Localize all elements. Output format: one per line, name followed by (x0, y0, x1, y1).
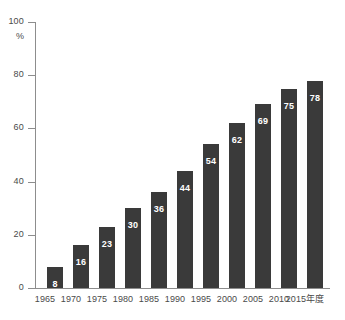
bar-group[interactable]: 78 (302, 22, 328, 288)
bar-group[interactable]: 23 (94, 22, 120, 288)
y-tick-mark (28, 128, 35, 129)
bar-value-label: 8 (42, 280, 68, 289)
bar[interactable] (307, 81, 323, 288)
bar-group[interactable]: 69 (250, 22, 276, 288)
y-axis-unit-label: % (0, 32, 24, 41)
bar-value-label: 75 (276, 102, 302, 111)
bar-group[interactable]: 54 (198, 22, 224, 288)
y-tick-mark (28, 75, 35, 76)
bar-value-label: 44 (172, 184, 198, 193)
bar-group[interactable]: 62 (224, 22, 250, 288)
bar-value-label: 69 (250, 117, 276, 126)
bar[interactable] (229, 123, 245, 288)
bar-value-label: 62 (224, 136, 250, 145)
bar-value-label: 16 (68, 258, 94, 267)
bar-group[interactable]: 8 (42, 22, 68, 288)
y-tick-mark (28, 288, 35, 289)
y-tick-label: 20 (0, 230, 24, 239)
bar-group[interactable]: 75 (276, 22, 302, 288)
x-axis-line (35, 288, 330, 289)
bar-group[interactable]: 36 (146, 22, 172, 288)
y-tick-mark (28, 22, 35, 23)
bar-value-label: 23 (94, 240, 120, 249)
bar-value-label: 54 (198, 157, 224, 166)
y-tick-label: 60 (0, 123, 24, 132)
plot-area: 816233036445462697578 (36, 22, 330, 288)
bar-chart: % 020406080100 816233036445462697578 196… (0, 0, 345, 320)
y-tick-mark (28, 235, 35, 236)
y-tick-label: 80 (0, 70, 24, 79)
y-tick-label: 0 (0, 283, 24, 292)
bar-value-label: 36 (146, 205, 172, 214)
y-tick-label: 40 (0, 177, 24, 186)
bar-group[interactable]: 44 (172, 22, 198, 288)
bar-value-label: 30 (120, 221, 146, 230)
bar[interactable] (281, 89, 297, 289)
x-axis-labels: 1965197019751980198519901995200020052010… (36, 294, 330, 310)
bar[interactable] (255, 104, 271, 288)
bar-group[interactable]: 30 (120, 22, 146, 288)
bar[interactable] (99, 227, 115, 288)
bar-group[interactable]: 16 (68, 22, 94, 288)
y-tick-mark (28, 182, 35, 183)
bar-value-label: 78 (302, 94, 328, 103)
x-tick-label: 2015年度 (282, 294, 328, 304)
y-tick-label: 100 (0, 17, 24, 26)
